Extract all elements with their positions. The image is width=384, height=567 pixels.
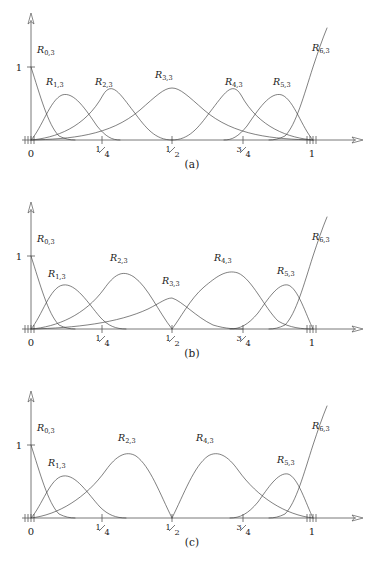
x-tick-label-half-a: 1 2 [165, 144, 179, 159]
curve-R4-a [172, 89, 313, 140]
sub-R0-a: 0,3 [44, 49, 55, 57]
svg-text:R2,3: R2,3 [117, 432, 136, 445]
curve-label-R2-a: R2,3 [94, 76, 113, 89]
curve-R5-a [224, 94, 313, 140]
curve-R5-c [230, 474, 313, 518]
curve-R2-a [31, 89, 172, 140]
sub-R2-b: 2,3 [117, 257, 128, 265]
curve-label-R0-a: R0,3 [36, 44, 55, 57]
sub-R5-a: 5,3 [280, 81, 291, 89]
curve-label-R6-b: R6,3 [311, 231, 330, 244]
panel-c: 1 0 1 4 1 [0, 378, 384, 567]
svg-text:R2,3: R2,3 [109, 252, 128, 265]
plot-b: 1 0 1 4 1 [0, 189, 384, 349]
curve-label-R6-c: R6,3 [311, 420, 330, 433]
panel-b: 1 0 1 4 1 [0, 189, 384, 378]
svg-text:R5,3: R5,3 [272, 76, 291, 89]
curve-R1-b [31, 285, 126, 329]
curve-label-R6-a: R6,3 [311, 42, 330, 55]
curve-label-R5-c: R5,3 [276, 454, 295, 467]
curve-label-R3-a: R3,3 [154, 69, 173, 82]
curve-label-R4-a: R4,3 [224, 76, 243, 89]
y-tick-label-b: 1 [16, 251, 22, 262]
sub-R4-a: 4,3 [232, 81, 243, 89]
curve-label-R1-c: R1,3 [47, 457, 66, 470]
sub-R5-b: 5,3 [284, 270, 295, 278]
sub-R2-c: 2,3 [125, 437, 136, 445]
sub-R6-c: 6,3 [319, 425, 330, 433]
curve-R1-a [31, 94, 120, 140]
caption-a: (a) [0, 158, 384, 170]
sub-R1-a: 1,3 [53, 81, 64, 89]
svg-text:R2,3: R2,3 [94, 76, 113, 89]
sub-R3-b: 3,3 [169, 280, 180, 288]
curve-R0-c [31, 445, 75, 518]
y-tick-label-a: 1 [16, 62, 22, 73]
x-tick-label-half-c: 1 2 [165, 522, 179, 537]
x-tick-label-threequarter-c: 3 4 [236, 522, 250, 537]
bspline-basis-figure: 1 0 1 4 [0, 0, 384, 567]
svg-text:R0,3: R0,3 [36, 44, 55, 57]
svg-text:R1,3: R1,3 [47, 268, 66, 281]
svg-text:R6,3: R6,3 [311, 420, 330, 433]
curve-label-R4-c: R4,3 [195, 432, 214, 445]
x-tick-label-half-b: 1 2 [165, 333, 179, 348]
svg-text:R4,3: R4,3 [224, 76, 243, 89]
curve-R5-b [230, 285, 313, 329]
svg-text:R0,3: R0,3 [36, 422, 55, 435]
curve-label-R0-c: R0,3 [36, 422, 55, 435]
sub-R6-b: 6,3 [319, 236, 330, 244]
svg-text:R4,3: R4,3 [195, 432, 214, 445]
x-tick-label-threequarter-a: 3 4 [236, 144, 250, 159]
curve-R2-b [31, 273, 172, 329]
svg-text:R3,3: R3,3 [154, 69, 173, 82]
sub-R6-a: 6,3 [319, 47, 330, 55]
x-tick-label-quarter-a: 1 4 [95, 144, 109, 159]
sub-R5-c: 5,3 [284, 459, 295, 467]
curve-R3-b [31, 298, 243, 329]
curve-R3-a [31, 88, 313, 140]
svg-text:R1,3: R1,3 [47, 457, 66, 470]
curve-label-R3-b: R3,3 [161, 275, 180, 288]
svg-text:R0,3: R0,3 [36, 233, 55, 246]
curve-label-R2-c: R2,3 [117, 432, 136, 445]
sub-R3-a: 3,3 [162, 74, 173, 82]
svg-text:R3,3: R3,3 [161, 275, 180, 288]
x-tick-label-threequarter-b: 3 4 [236, 333, 250, 348]
curve-label-R2-b: R2,3 [109, 252, 128, 265]
sub-R4-b: 4,3 [221, 257, 232, 265]
sub-R1-c: 1,3 [55, 462, 66, 470]
x-tick-label-quarter-c: 1 4 [95, 522, 109, 537]
sub-R0-b: 0,3 [44, 238, 55, 246]
panel-a: 1 0 1 4 [0, 0, 384, 189]
caption-b: (b) [0, 347, 384, 359]
curve-label-R5-b: R5,3 [276, 265, 295, 278]
caption-c: (c) [0, 536, 384, 548]
sub-R0-c: 0,3 [44, 427, 55, 435]
curve-label-R1-a: R1,3 [45, 76, 64, 89]
plot-a: 1 0 1 4 [0, 0, 384, 160]
curve-R1-c [31, 476, 126, 518]
svg-text:R5,3: R5,3 [276, 454, 295, 467]
curve-label-R1-b: R1,3 [47, 268, 66, 281]
curve-label-R4-b: R4,3 [213, 252, 232, 265]
x-tick-label-quarter-b: 1 4 [95, 333, 109, 348]
sub-R2-a: 2,3 [102, 81, 113, 89]
svg-text:R4,3: R4,3 [213, 252, 232, 265]
y-tick-label-c: 1 [16, 440, 22, 451]
sub-R4-c: 4,3 [203, 437, 214, 445]
plot-c: 1 0 1 4 1 [0, 378, 384, 538]
curve-label-R0-b: R0,3 [36, 233, 55, 246]
sub-R1-b: 1,3 [55, 273, 66, 281]
curve-label-R5-a: R5,3 [272, 76, 291, 89]
svg-text:R6,3: R6,3 [311, 231, 330, 244]
svg-text:R6,3: R6,3 [311, 42, 330, 55]
svg-text:R1,3: R1,3 [45, 76, 64, 89]
curve-R4-b [172, 272, 313, 329]
svg-text:R5,3: R5,3 [276, 265, 295, 278]
